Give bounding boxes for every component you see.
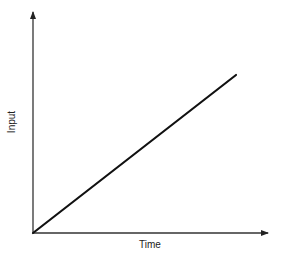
y-axis-label: Input [6, 102, 20, 142]
x-axis-label: Time [0, 239, 288, 250]
input-series-line [33, 75, 236, 233]
chart-canvas [0, 0, 288, 259]
